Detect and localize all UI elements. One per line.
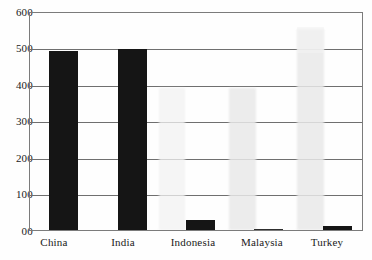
bar-china — [49, 51, 78, 230]
bar-turkey — [323, 226, 352, 230]
bar-indonesia — [186, 220, 215, 230]
scan-speckle-upper — [297, 27, 324, 53]
ghost-band-turkey — [297, 29, 324, 230]
bar-chart: 600 500 400 300 200 100 00 China India I… — [0, 0, 372, 260]
x-axis-tick-label-china: China — [23, 236, 85, 248]
x-axis-tick-label-turkey: Turkey — [296, 236, 358, 248]
ghost-band-malaysia — [229, 88, 256, 230]
x-axis-tick-label-indonesia: Indonesia — [156, 236, 230, 248]
x-axis-tick-label-malaysia: Malaysia — [225, 236, 299, 248]
bar-malaysia — [254, 229, 283, 230]
x-axis-tick-label-india: India — [92, 236, 154, 248]
plot-area — [29, 12, 363, 231]
ghost-band-indonesia — [159, 88, 185, 230]
bar-india — [118, 49, 147, 230]
